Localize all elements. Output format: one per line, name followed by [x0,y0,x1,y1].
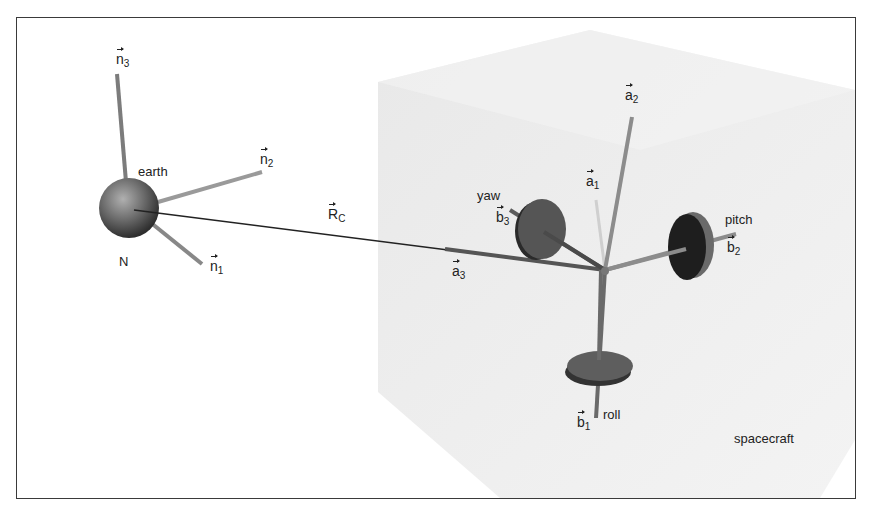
spacecraft-center-hub [601,267,609,275]
label-b3: b3 [496,210,509,227]
label-a2: a2 [625,88,638,105]
label-n2: n2 [260,152,273,169]
earth-axis-n2 [158,172,262,202]
label-n3: n3 [116,52,129,69]
label-frame-n: N [119,255,128,268]
label-a3: a3 [452,264,465,281]
pitch-wheel[interactable] [668,214,706,280]
label-roll: roll [603,408,620,421]
label-yaw: yaw [477,189,500,202]
roll-wheel-shaft [599,270,601,360]
label-rc: RC [328,207,345,224]
earth-axis-n3 [117,74,126,182]
label-earth: earth [138,165,168,178]
label-spacecraft: spacecraft [734,432,794,445]
label-n1: n1 [210,259,223,276]
yaw-wheel[interactable] [518,199,566,259]
label-b1: b1 [577,415,590,432]
label-b2: b2 [727,240,740,257]
earth-sphere [99,178,159,238]
label-a1: a1 [586,174,599,191]
label-pitch: pitch [725,213,752,226]
